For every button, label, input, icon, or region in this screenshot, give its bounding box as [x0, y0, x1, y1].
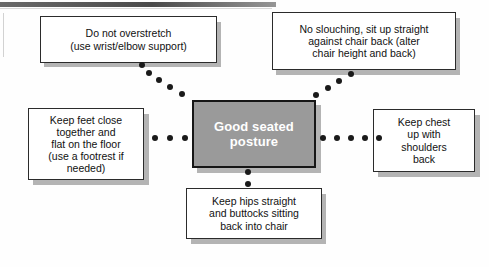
- node-top-right[interactable]: No slouching, sit up straightagainst cha…: [272, 12, 456, 70]
- connector-dot-center-to-right: [376, 135, 382, 141]
- connector-dot-center-to-top-right: [325, 85, 331, 91]
- connector-dot-center-to-top-right: [336, 78, 342, 84]
- connector-dot-center-to-left: [167, 135, 173, 141]
- node-center-label: Good seatedposture: [211, 119, 297, 149]
- connector-dot-center-to-top-left: [179, 91, 185, 97]
- page-left-edge: [3, 13, 4, 57]
- connector-dot-center-to-right: [334, 135, 340, 141]
- node-center[interactable]: Good seatedposture: [192, 100, 316, 168]
- connector-dot-center-to-right: [320, 135, 326, 141]
- node-left[interactable]: Keep feet closetogether andflat on the f…: [28, 108, 144, 180]
- connector-dot-center-to-left: [182, 135, 188, 141]
- connector-dot-center-to-top-right: [313, 92, 319, 98]
- node-top-left[interactable]: Do not overstretch(use wrist/elbow suppo…: [40, 16, 217, 63]
- node-bottom-label: Keep hips straightand buttocks sittingba…: [206, 195, 302, 232]
- diagram-canvas: Do not overstretch(use wrist/elbow suppo…: [0, 0, 489, 267]
- page-edge-hairline: [0, 8, 272, 9]
- node-right[interactable]: Keep chestup withshouldersback: [373, 109, 475, 172]
- node-bottom[interactable]: Keep hips straightand buttocks sittingba…: [186, 188, 322, 239]
- node-right-label: Keep chestup withshouldersback: [395, 116, 454, 165]
- connector-dot-center-to-right: [348, 135, 354, 141]
- connector-dot-center-to-top-left: [139, 62, 145, 68]
- connector-dot-center-to-top-left: [146, 70, 152, 76]
- connector-dot-center-to-bottom: [245, 181, 251, 187]
- connector-dot-center-to-top-right: [348, 71, 354, 77]
- page-edge-bar: [0, 2, 276, 7]
- node-top-left-label: Do not overstretch(use wrist/elbow suppo…: [67, 27, 190, 51]
- connector-dot-center-to-left: [152, 135, 158, 141]
- connector-dot-center-to-right: [362, 135, 368, 141]
- node-top-right-label: No slouching, sit up straightagainst cha…: [297, 23, 432, 60]
- node-left-label: Keep feet closetogether andflat on the f…: [45, 114, 126, 175]
- connector-dot-center-to-bottom: [245, 169, 251, 175]
- connector-dot-center-to-top-left: [167, 84, 173, 90]
- connector-dot-center-to-top-left: [156, 77, 162, 83]
